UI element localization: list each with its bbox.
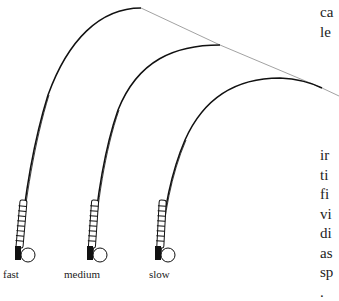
text-line: ca	[320, 3, 333, 23]
slow-rod-illustration	[155, 78, 322, 262]
text-line: le	[320, 23, 333, 43]
medium-label: medium	[64, 268, 100, 280]
slow-label: slow	[149, 268, 170, 280]
text-line: as	[320, 244, 333, 264]
text-line: .	[320, 283, 333, 301]
text-line: ti	[320, 166, 333, 186]
fast-rod-illustration	[15, 8, 141, 262]
medium-rod-illustration	[87, 45, 220, 262]
text-line: ir	[320, 146, 333, 166]
text-line: di	[320, 224, 333, 244]
text-line: fi	[320, 185, 333, 205]
side-text-bottom: ir ti fi vi di as sp .	[320, 146, 333, 301]
text-line: sp	[320, 263, 333, 283]
side-text-top: ca le	[320, 3, 333, 42]
text-line: vi	[320, 205, 333, 225]
fast-label: fast	[3, 268, 19, 280]
